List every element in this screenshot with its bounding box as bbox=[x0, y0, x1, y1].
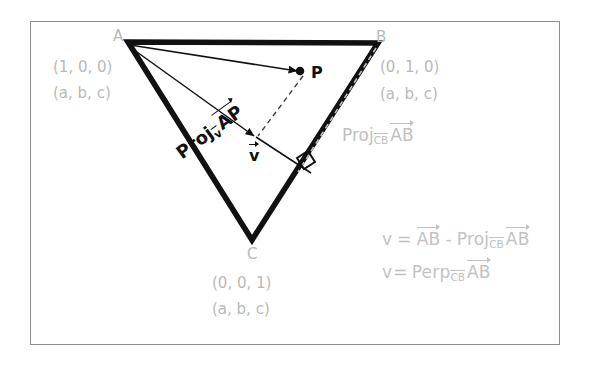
vertex-coords-A-barycentric: (1, 0, 0) bbox=[53, 59, 112, 77]
eq1-equals: = bbox=[397, 229, 411, 249]
vertex-coords-A-generic: (a, b, c) bbox=[53, 85, 111, 103]
eq2-subscript: CB bbox=[450, 271, 465, 283]
equation-1: v=AB-ProjCBAB bbox=[382, 229, 530, 251]
eq2-function: Perp bbox=[412, 262, 451, 282]
eq1-term1: AB bbox=[417, 229, 441, 249]
vertex-coords-B-generic: (a, b, c) bbox=[380, 86, 438, 104]
proj-cb-operand: AB bbox=[390, 125, 413, 145]
eq1-operand: AB bbox=[506, 229, 530, 249]
vector-v-label: v bbox=[249, 147, 259, 166]
diagram-page: A (1, 0, 0) (a, b, c) B (0, 1, 0) (a, b,… bbox=[0, 0, 594, 369]
eq1-function: Proj bbox=[457, 229, 490, 249]
point-label-P: P bbox=[311, 64, 323, 83]
eq1-operator: - bbox=[445, 229, 451, 249]
vertex-label-B: B bbox=[376, 29, 386, 47]
eq2-equals: = bbox=[393, 262, 407, 282]
vertex-coords-B-barycentric: (0, 1, 0) bbox=[380, 59, 439, 77]
vertex-label-C: C bbox=[247, 246, 257, 264]
eq1-lhs: v bbox=[382, 229, 392, 249]
vertex-coords-C-generic: (a, b, c) bbox=[212, 301, 270, 319]
proj-cb-prefix: Proj bbox=[342, 125, 374, 145]
eq2-operand: AB bbox=[467, 262, 491, 282]
equation-2: v=PerpCBAB bbox=[382, 262, 491, 284]
proj-cb-ab-label: ProjCBAB bbox=[342, 125, 414, 147]
vertex-label-A: A bbox=[113, 28, 123, 46]
vector-v-text: v bbox=[249, 146, 259, 165]
eq2-lhs: v bbox=[382, 262, 392, 282]
vertex-coords-C-barycentric: (0, 0, 1) bbox=[212, 275, 271, 293]
proj-cb-subscript: CB bbox=[374, 134, 389, 146]
eq1-subscript: CB bbox=[489, 238, 504, 250]
